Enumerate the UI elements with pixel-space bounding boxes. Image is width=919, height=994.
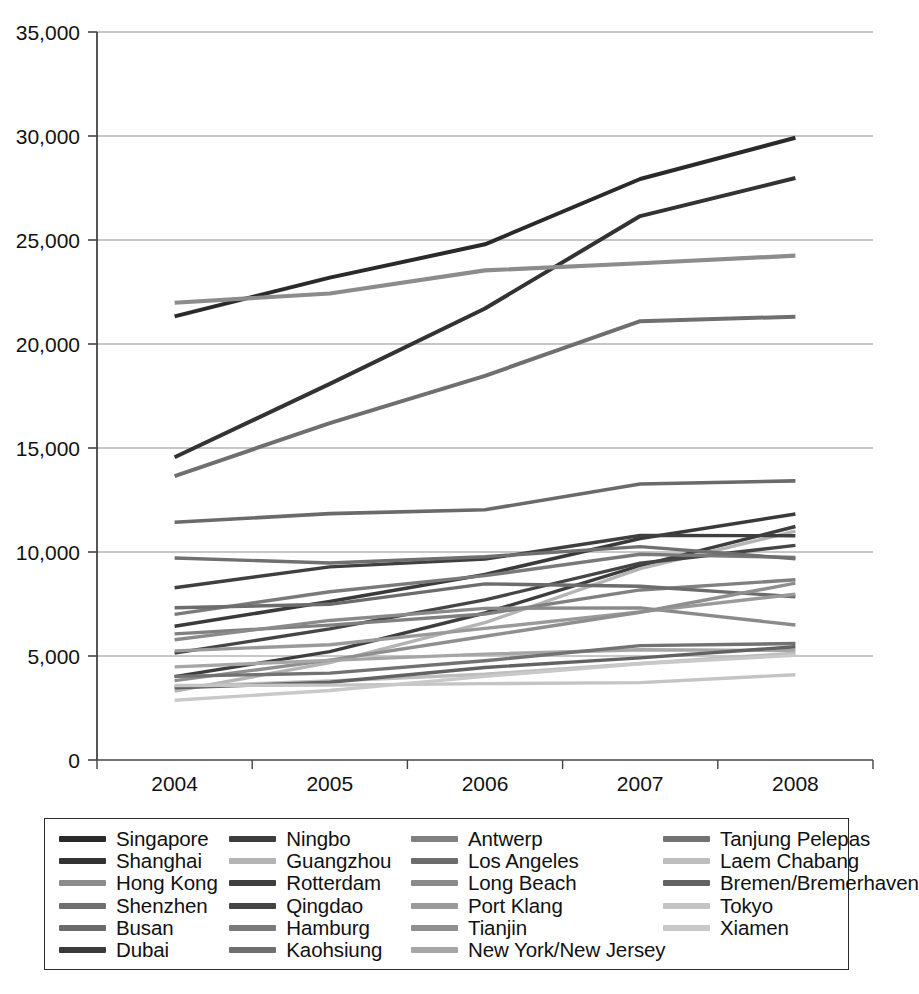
x-axis-tick-label: 2005 — [306, 772, 353, 795]
legend-item-label: Port Klang — [458, 896, 563, 916]
legend-item[interactable]: Hamburg — [229, 917, 411, 939]
x-axis-tick-label: 2008 — [772, 772, 819, 795]
legend-color-swatch — [229, 947, 276, 953]
legend-item-label: Antwerp — [458, 829, 543, 849]
plot-svg: 05,00010,00015,00020,00025,00030,00035,0… — [0, 0, 893, 800]
legend-item-label: Long Beach — [458, 873, 576, 893]
y-axis-tick-label: 25,000 — [16, 229, 80, 252]
legend-item[interactable]: Tianjin — [411, 917, 663, 939]
chart-legend: SingaporeShanghaiHong KongShenzhenBusanD… — [44, 818, 849, 970]
legend-item[interactable]: Shenzhen — [59, 895, 229, 917]
y-axis-tick-label: 5,000 — [27, 645, 80, 668]
legend-item-label: Guangzhou — [276, 851, 391, 871]
legend-item-label: Los Angeles — [458, 851, 579, 871]
legend-item[interactable]: Hong Kong — [59, 872, 229, 894]
legend-item-label: Ningbo — [276, 829, 350, 849]
legend-color-swatch — [411, 925, 458, 931]
series-line — [175, 317, 796, 476]
legend-item[interactable]: New York/New Jersey — [411, 939, 663, 961]
legend-item[interactable]: Antwerp — [411, 828, 663, 850]
legend-item[interactable]: Shanghai — [59, 850, 229, 872]
legend-columns: SingaporeShanghaiHong KongShenzhenBusanD… — [45, 828, 848, 969]
y-axis-tick-label: 15,000 — [16, 437, 80, 460]
series-line — [175, 256, 796, 303]
legend-item[interactable]: Xiamen — [663, 917, 848, 939]
legend-color-swatch — [663, 925, 710, 931]
legend-color-swatch — [663, 903, 710, 909]
legend-item[interactable]: Bremen/Bremerhaven — [663, 872, 848, 894]
legend-column-4: Tanjung PelepasLaem ChabangBremen/Bremer… — [663, 828, 848, 969]
legend-item-label: Kaohsiung — [276, 940, 382, 960]
legend-color-swatch — [229, 836, 276, 842]
legend-item[interactable]: Rotterdam — [229, 872, 411, 894]
series-line — [175, 138, 796, 317]
legend-color-swatch — [229, 903, 276, 909]
x-axis-tick-label: 2006 — [462, 772, 509, 795]
line-chart: 05,00010,00015,00020,00025,00030,00035,0… — [0, 0, 893, 800]
legend-color-swatch — [663, 880, 710, 886]
legend-color-swatch — [59, 858, 106, 864]
legend-item[interactable]: Tanjung Pelepas — [663, 828, 848, 850]
legend-item[interactable]: Guangzhou — [229, 850, 411, 872]
legend-item[interactable]: Laem Chabang — [663, 850, 848, 872]
legend-item-label: Singapore — [106, 829, 209, 849]
legend-item[interactable]: Qingdao — [229, 895, 411, 917]
legend-item-label: Shanghai — [106, 851, 202, 871]
legend-column-3: AntwerpLos AngelesLong BeachPort KlangTi… — [411, 828, 663, 969]
y-axis-tick-label: 10,000 — [16, 541, 80, 564]
legend-item[interactable]: Busan — [59, 917, 229, 939]
legend-column-1: SingaporeShanghaiHong KongShenzhenBusanD… — [45, 828, 229, 969]
legend-item[interactable]: Kaohsiung — [229, 939, 411, 961]
legend-color-swatch — [59, 925, 106, 931]
y-axis-tick-label: 0 — [68, 749, 80, 772]
legend-column-2: NingboGuangzhouRotterdamQingdaoHamburgKa… — [229, 828, 411, 969]
legend-color-swatch — [59, 903, 106, 909]
legend-item-label: Tianjin — [458, 918, 527, 938]
legend-color-swatch — [411, 880, 458, 886]
legend-color-swatch — [59, 836, 106, 842]
legend-color-swatch — [411, 836, 458, 842]
series-line — [175, 481, 796, 522]
legend-color-swatch — [663, 858, 710, 864]
x-axis-tick-label: 2004 — [151, 772, 198, 795]
legend-item-label: Hong Kong — [106, 873, 218, 893]
legend-item-label: New York/New Jersey — [458, 940, 666, 960]
legend-color-swatch — [229, 858, 276, 864]
y-axis-tick-label: 30,000 — [16, 125, 80, 148]
legend-color-swatch — [59, 947, 106, 953]
legend-item-label: Shenzhen — [106, 896, 208, 916]
legend-color-swatch — [229, 925, 276, 931]
legend-item-label: Dubai — [106, 940, 169, 960]
legend-item-label: Hamburg — [276, 918, 370, 938]
legend-item-label: Qingdao — [276, 896, 363, 916]
legend-item-label: Bremen/Bremerhaven — [710, 873, 919, 893]
legend-item-label: Laem Chabang — [710, 851, 859, 871]
legend-color-swatch — [229, 880, 276, 886]
legend-item[interactable]: Port Klang — [411, 895, 663, 917]
legend-item[interactable]: Long Beach — [411, 872, 663, 894]
legend-color-swatch — [411, 858, 458, 864]
y-axis-tick-label: 20,000 — [16, 333, 80, 356]
x-axis-tick-label: 2007 — [617, 772, 664, 795]
legend-item-label: Busan — [106, 918, 174, 938]
legend-color-swatch — [411, 947, 458, 953]
legend-item[interactable]: Singapore — [59, 828, 229, 850]
legend-item[interactable]: Los Angeles — [411, 850, 663, 872]
legend-color-swatch — [59, 880, 106, 886]
legend-item[interactable]: Ningbo — [229, 828, 411, 850]
legend-color-swatch — [411, 903, 458, 909]
legend-item[interactable]: Tokyo — [663, 895, 848, 917]
legend-item-label: Xiamen — [710, 918, 789, 938]
legend-item[interactable]: Dubai — [59, 939, 229, 961]
legend-color-swatch — [663, 836, 710, 842]
legend-item-label: Tokyo — [710, 896, 773, 916]
legend-item-label: Tanjung Pelepas — [710, 829, 870, 849]
y-axis-tick-label: 35,000 — [16, 21, 80, 44]
legend-item-label: Rotterdam — [276, 873, 381, 893]
